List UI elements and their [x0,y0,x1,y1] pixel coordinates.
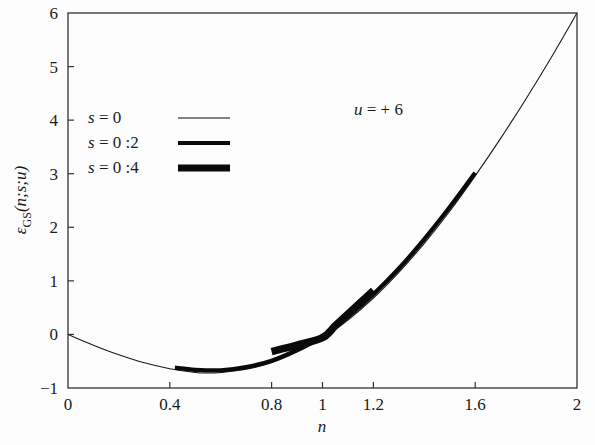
annotation-u-value: u = + 6 [354,100,403,119]
y-tick-label: 1 [50,272,59,291]
chart-annotations: u = + 6 [354,100,403,119]
x-axis-title: n [318,417,327,436]
y-tick-label: 6 [50,4,59,23]
x-tick-label: 2 [573,395,582,414]
x-tick-label: 1.6 [465,395,486,414]
y-tick-label: −1 [40,379,58,398]
x-tick-label: 0 [64,395,73,414]
legend-label-1: s = 0 :2 [88,133,139,152]
legend-label-0: s = 0 [88,108,121,127]
chart-background [0,0,595,445]
x-tick-label: 1 [318,395,327,414]
x-tick-label: 0.4 [159,395,181,414]
y-tick-label: 5 [50,58,59,77]
y-axis-subscript: GS [20,212,34,227]
y-tick-label: 3 [50,165,59,184]
figure-container: 00.40.811.21.62 −10123456 s = 0s = 0 :2s… [0,0,595,445]
x-tick-label: 0.8 [261,395,282,414]
chart-svg: 00.40.811.21.62 −10123456 s = 0s = 0 :2s… [0,0,595,445]
legend-label-2: s = 0 :4 [88,158,139,177]
y-tick-label: 2 [50,218,59,237]
y-axis-arguments: (n;s;u) [11,166,30,213]
x-tick-label: 1.2 [363,395,384,414]
y-tick-label: 0 [50,325,59,344]
y-tick-label: 4 [50,111,59,130]
